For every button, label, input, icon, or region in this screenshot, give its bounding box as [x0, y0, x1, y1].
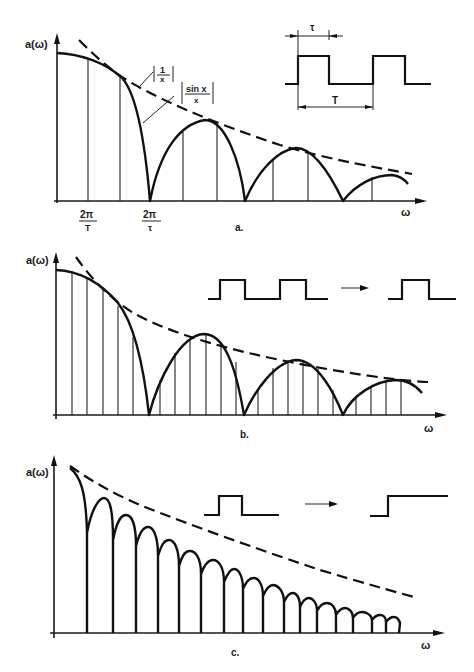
- svg-text:x: x: [160, 75, 165, 84]
- spectrum-diagram: a(ω) ω 1 x sin: [0, 0, 474, 672]
- panel-a: a(ω) ω 1 x sin: [25, 22, 431, 233]
- svg-text:sin x: sin x: [186, 84, 207, 94]
- sinc-curve: [56, 270, 422, 415]
- annotation-1-over-x: 1 x: [154, 65, 173, 84]
- y-axis-label: a(ω): [26, 466, 49, 478]
- leader-line-sinx-over-x: [143, 96, 174, 123]
- leader-line-1-over-x: [140, 72, 153, 86]
- x-axis-label: ω: [401, 206, 410, 218]
- y-axis-arrow-icon: [54, 33, 60, 44]
- y-axis-label: a(ω): [25, 38, 48, 50]
- period-label: T: [332, 95, 338, 106]
- panel-caption: a.: [235, 222, 244, 233]
- panel-caption: b.: [240, 429, 249, 440]
- x-axis-label: ω: [421, 639, 430, 651]
- inset-pulse-to-step: [204, 496, 448, 516]
- svg-text:2π: 2π: [143, 209, 157, 220]
- svg-text:2π: 2π: [80, 209, 94, 220]
- x-axis-arrow-icon: [415, 198, 427, 204]
- spectral-lines: [72, 271, 401, 415]
- panel-c: a(ω) ω c.: [26, 455, 448, 658]
- tick-label-2pi-over-T: 2π T: [79, 209, 97, 233]
- annotation-sinx-over-x: sin x x: [182, 82, 213, 105]
- envelope-curve: [70, 466, 418, 598]
- sinc-curve: [57, 53, 408, 201]
- svg-text:1: 1: [160, 65, 165, 75]
- y-axis-arrow-icon: [51, 455, 57, 466]
- inset-pulse-train: τ T: [285, 22, 431, 110]
- x-axis-label: ω: [424, 422, 433, 434]
- y-axis-arrow-icon: [53, 252, 59, 263]
- svg-text:τ: τ: [148, 223, 152, 233]
- arrow-right-icon: [360, 285, 369, 291]
- tick-label-2pi-over-tau: 2π τ: [142, 209, 161, 233]
- y-axis-label: a(ω): [26, 254, 49, 266]
- dense-spectrum: [70, 468, 400, 633]
- tau-label: τ: [310, 22, 315, 33]
- svg-text:T: T: [85, 223, 91, 233]
- panel-b: a(ω) ω b.: [26, 252, 456, 440]
- x-axis-arrow-icon: [433, 630, 445, 636]
- panel-caption: c.: [231, 647, 240, 658]
- x-axis-arrow-icon: [435, 412, 447, 418]
- arrow-right-icon: [329, 501, 338, 507]
- inset-pulse-train-to-single-pulse: [208, 280, 456, 299]
- svg-text:x: x: [194, 96, 199, 105]
